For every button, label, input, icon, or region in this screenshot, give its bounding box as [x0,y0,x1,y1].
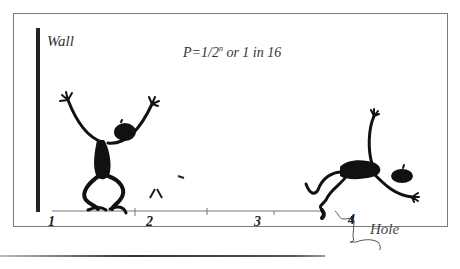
position-label-2: 2 [146,214,153,230]
stick-figure-falling [306,109,419,218]
wall-label: Wall [47,33,74,50]
position-label-4: 4 [348,212,355,228]
stick-figure-standing [60,92,159,213]
position-label-3: 3 [254,214,261,230]
formula-prefix: P=1/2 [183,45,219,60]
wall [36,28,40,212]
position-label-1: 1 [48,214,55,230]
probability-formula: P=1/2n or 1 in 16 [183,44,281,61]
debris-marks [150,189,162,198]
debris-mark [178,176,184,178]
formula-suffix: or 1 in 16 [223,45,281,60]
bottom-rule [0,255,325,257]
hole-label: Hole [370,221,399,238]
